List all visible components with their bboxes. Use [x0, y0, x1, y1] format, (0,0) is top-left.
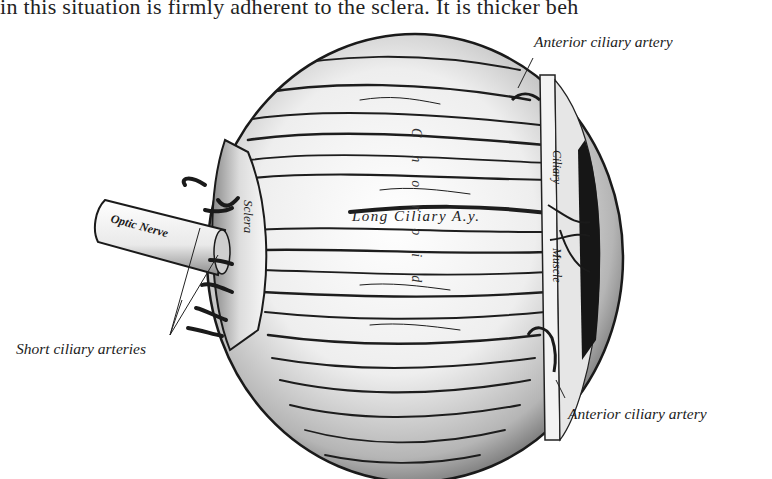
short-ciliary-arteries-label: Short ciliary arteries [16, 340, 146, 358]
sclera-label: Sclera [241, 200, 256, 234]
ciliary-label: Ciliary [550, 150, 564, 185]
long-ciliary-artery-label: Long Ciliary A.y. [351, 208, 481, 224]
muscle-label: Muscle [550, 247, 564, 283]
anterior-ciliary-artery-label-bottom: Anterior ciliary artery [568, 405, 707, 423]
anterior-ciliary-artery-label-top: Anterior ciliary artery [534, 33, 673, 51]
